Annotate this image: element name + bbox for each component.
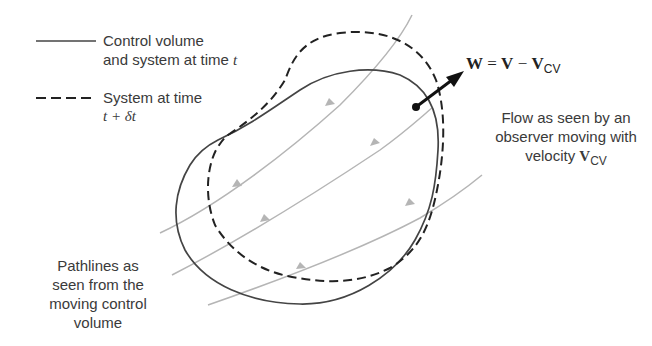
pathline-3 bbox=[208, 175, 482, 305]
relative-velocity-equation: W = V − VCV bbox=[466, 54, 560, 75]
arrowhead-icon bbox=[446, 71, 464, 87]
arrowhead-icon bbox=[405, 198, 415, 206]
arrowhead-icon bbox=[232, 179, 242, 187]
relative-velocity-arrow bbox=[412, 71, 464, 111]
pathline-arrowheads bbox=[232, 98, 415, 269]
legend-solid-label: Control volume and system at time t bbox=[103, 31, 237, 70]
arrowhead-icon bbox=[296, 262, 306, 269]
arrowhead-icon bbox=[370, 138, 380, 146]
pathline-2 bbox=[172, 108, 432, 275]
pathlines-label: Pathlines as seen from the moving contro… bbox=[38, 256, 158, 332]
legend-dashed-label: System at time t + δt bbox=[103, 88, 202, 126]
observer-label: Flow as seen by an observer moving with … bbox=[483, 108, 649, 167]
system-boundary bbox=[208, 32, 443, 281]
arrowhead-icon bbox=[325, 98, 335, 106]
